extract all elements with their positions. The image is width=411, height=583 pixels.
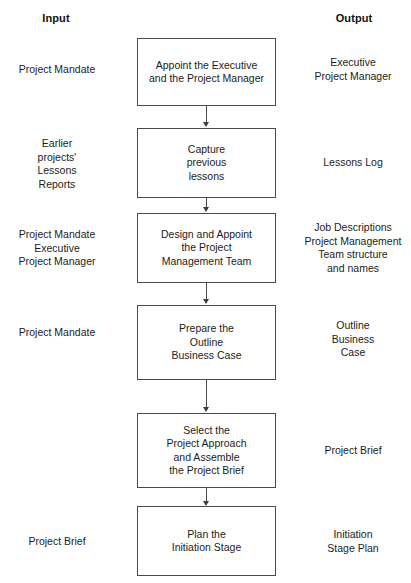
- output-label-step-6: Initiation Stage Plan: [296, 528, 410, 555]
- output-label-step-1: Executive Project Manager: [296, 56, 410, 83]
- connector-3-to-4: [206, 283, 207, 300]
- process-box-step-1-text: Appoint the Executive and the Project Ma…: [138, 59, 275, 86]
- connector-1-to-2: [206, 106, 207, 123]
- process-box-step-5[interactable]: Select the Project Approach and Assemble…: [137, 413, 276, 488]
- process-box-step-3[interactable]: Design and Appoint the Project Managemen…: [137, 213, 276, 283]
- output-label-step-4: Outline Business Case: [296, 319, 410, 360]
- input-label-step-3: Project Mandate Executive Project Manage…: [0, 228, 114, 269]
- process-box-step-5-text: Select the Project Approach and Assemble…: [138, 424, 275, 478]
- process-box-step-6-text: Plan the Initiation Stage: [138, 528, 275, 555]
- input-label-step-2: Earlier projects' Lessons Reports: [0, 137, 114, 191]
- input-label-step-4: Project Mandate: [0, 326, 114, 340]
- output-label-step-5: Project Brief: [296, 444, 410, 458]
- process-box-step-2[interactable]: Capture previous lessons: [137, 128, 276, 198]
- connector-5-to-6: [206, 488, 207, 502]
- process-box-step-2-text: Capture previous lessons: [138, 143, 275, 184]
- arrowhead-1-to-2: [203, 122, 209, 127]
- process-box-step-4[interactable]: Prepare the Outline Business Case: [137, 305, 276, 380]
- process-box-step-4-text: Prepare the Outline Business Case: [138, 322, 275, 363]
- column-header-output: Output: [298, 12, 410, 24]
- column-header-input: Input: [0, 12, 112, 24]
- arrowhead-4-to-5: [203, 407, 209, 412]
- arrowhead-3-to-4: [203, 299, 209, 304]
- output-label-step-3: Job Descriptions Project Management Team…: [296, 221, 410, 275]
- process-flow-diagram: Input Output Project Mandate Appoint the…: [0, 0, 411, 583]
- output-label-step-2: Lessons Log: [296, 156, 410, 170]
- process-box-step-6[interactable]: Plan the Initiation Stage: [137, 506, 276, 576]
- process-box-step-3-text: Design and Appoint the Project Managemen…: [138, 228, 275, 269]
- process-box-step-1[interactable]: Appoint the Executive and the Project Ma…: [137, 38, 276, 106]
- input-label-step-1: Project Mandate: [0, 63, 114, 77]
- connector-4-to-5: [206, 380, 207, 408]
- input-label-step-6: Project Brief: [0, 535, 114, 549]
- arrowhead-2-to-3: [203, 207, 209, 212]
